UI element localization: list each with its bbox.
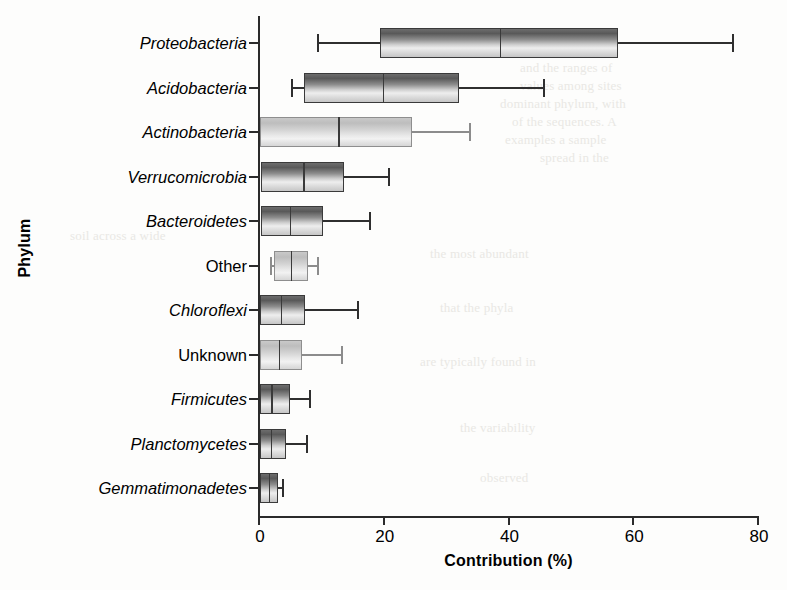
whisker-cap	[357, 301, 359, 319]
whisker-line	[459, 87, 544, 89]
y-axis-tick	[249, 220, 259, 222]
x-axis-title: Contribution (%)	[258, 552, 759, 570]
category-label-acidobacteria: Acidobacteria	[17, 79, 247, 96]
category-label-unknown: Unknown	[17, 346, 247, 363]
x-axis-tick	[757, 516, 759, 525]
whisker-cap	[543, 79, 545, 97]
whisker-cap	[317, 34, 319, 52]
y-axis-tick	[249, 398, 259, 400]
category-label-gemmatimonadetes: Gemmatimonadetes	[17, 480, 247, 497]
category-label-chloroflexi: Chloroflexi	[17, 302, 247, 319]
whisker-cap	[732, 34, 734, 52]
y-axis-tick	[249, 176, 259, 178]
median-line	[281, 295, 282, 325]
whisker-cap	[282, 479, 284, 497]
category-label-planctomycetes: Planctomycetes	[17, 435, 247, 452]
category-label-bacteroidetes: Bacteroidetes	[17, 213, 247, 230]
box-unknown	[260, 340, 302, 370]
x-axis-tick-label: 60	[604, 527, 664, 547]
whisker-cap	[270, 257, 272, 275]
x-axis-tick-label: 0	[230, 527, 290, 547]
whisker-line	[318, 42, 380, 44]
median-line	[269, 473, 270, 503]
box-bacteroidetes	[261, 206, 323, 236]
category-label-proteobacteria: Proteobacteria	[17, 35, 247, 52]
median-line	[500, 28, 501, 58]
whisker-line	[344, 176, 389, 178]
whisker-cap	[291, 79, 293, 97]
whisker-line	[412, 131, 470, 133]
box-planctomycetes	[260, 429, 286, 459]
y-axis-tick	[249, 265, 259, 267]
x-axis-tick	[383, 516, 385, 525]
y-axis-tick	[249, 87, 259, 89]
box-chloroflexi	[260, 295, 305, 325]
whisker-cap	[369, 212, 371, 230]
median-line	[279, 340, 280, 370]
median-line	[290, 206, 291, 236]
y-axis-tick	[249, 487, 259, 489]
median-line	[271, 429, 272, 459]
whisker-cap	[317, 257, 319, 275]
category-label-verrucomicrobia: Verrucomicrobia	[17, 168, 247, 185]
whisker-line	[302, 354, 342, 356]
whisker-cap	[341, 346, 343, 364]
box-actinobacteria	[260, 117, 412, 147]
whisker-cap	[309, 390, 311, 408]
whisker-cap	[469, 123, 471, 141]
median-line	[303, 162, 304, 192]
y-axis-tick	[249, 443, 259, 445]
x-axis-tick	[632, 516, 634, 525]
x-axis-tick	[258, 516, 260, 525]
category-label-firmicutes: Firmicutes	[17, 391, 247, 408]
whisker-line	[290, 398, 310, 400]
y-axis-tick	[249, 354, 259, 356]
whisker-cap	[388, 168, 390, 186]
category-label-actinobacteria: Actinobacteria	[17, 124, 247, 141]
x-axis-tick-label: 20	[355, 527, 415, 547]
box-acidobacteria	[304, 73, 459, 103]
category-label-other: Other	[17, 257, 247, 274]
whisker-line	[286, 443, 307, 445]
whisker-line	[323, 220, 370, 222]
whisker-line	[292, 87, 304, 89]
box-plot-chart: Phylum ProteobacteriaAcidobacteriaActino…	[0, 0, 787, 590]
whisker-line	[618, 42, 733, 44]
x-axis-tick-label: 40	[480, 527, 540, 547]
y-axis-tick	[249, 42, 259, 44]
y-axis-tick	[249, 131, 259, 133]
whisker-line	[305, 309, 358, 311]
box-firmicutes	[260, 384, 290, 414]
y-axis-tick	[249, 309, 259, 311]
median-line	[338, 117, 339, 147]
median-line	[271, 384, 272, 414]
x-axis-tick-label: 80	[729, 527, 787, 547]
whisker-cap	[306, 435, 308, 453]
median-line	[383, 73, 384, 103]
median-line	[291, 251, 292, 281]
x-axis-tick	[508, 516, 510, 525]
